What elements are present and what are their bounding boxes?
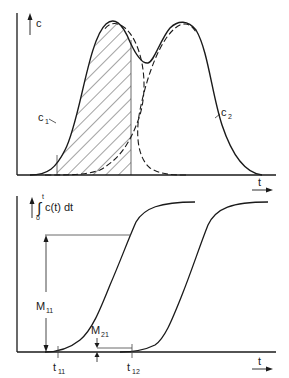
bottom-x-axis-label: t — [258, 355, 261, 367]
curve-total — [30, 21, 262, 175]
label-t12-sub: 12 — [132, 368, 140, 375]
integral-lower-limit: o — [36, 214, 40, 221]
integrand-label: c(t) dt — [45, 201, 73, 213]
up-arrow-icon — [30, 197, 35, 218]
chromatogram-figure: c c 1 c 2 t t ∫ o c(t) dt — [0, 0, 289, 378]
top-x-axis-label: t — [258, 176, 261, 188]
label-c1-sub: 1 — [45, 118, 49, 125]
label-m11: M — [36, 300, 45, 312]
label-m21: M — [91, 324, 100, 336]
label-m11-sub: 11 — [46, 307, 53, 314]
curve-c2-component — [138, 24, 196, 175]
leader-c1 — [49, 119, 56, 123]
m11-dimension — [44, 235, 49, 352]
label-t12: t — [127, 361, 130, 373]
m21-dimension — [95, 338, 100, 362]
label-c2: c — [221, 106, 227, 118]
label-c2-sub: 2 — [228, 113, 232, 120]
integral-upper-limit: t — [42, 193, 44, 200]
right-arrow-icon — [252, 367, 273, 372]
right-arrow-icon — [252, 188, 273, 193]
label-t11: t — [53, 361, 56, 373]
figure-svg: c c 1 c 2 t t ∫ o c(t) dt — [0, 0, 289, 378]
hatched-area — [20, 22, 131, 175]
top-y-axis-label: c — [36, 17, 42, 29]
label-m21-sub: 21 — [101, 331, 109, 338]
top-panel: c c 1 c 2 t — [17, 13, 276, 193]
cumulative-curve-1 — [45, 202, 195, 352]
bottom-panel: t ∫ o c(t) dt M 11 M 21 t 11 — [17, 193, 276, 375]
label-t11-sub: 11 — [58, 368, 65, 375]
label-c1: c — [38, 111, 44, 123]
cumulative-curve-2 — [120, 202, 268, 352]
up-arrow-icon — [28, 13, 33, 35]
